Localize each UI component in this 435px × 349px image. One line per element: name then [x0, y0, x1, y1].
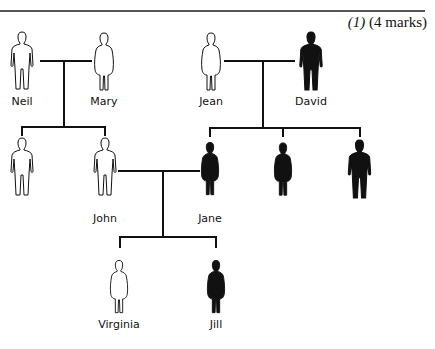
person-mary [92, 32, 116, 92]
sibling-bar-neil-mary [21, 126, 106, 128]
female-unaffected-icon [92, 32, 116, 92]
male-unaffected-icon [10, 137, 34, 197]
drop-gen2-son-2 [359, 127, 361, 137]
drop-virginia [119, 236, 121, 248]
label-jane: Jane [175, 212, 245, 225]
male-unaffected-icon [10, 31, 34, 91]
label-mary: Mary [69, 95, 139, 108]
person-virginia [108, 258, 130, 316]
header-rule [0, 10, 425, 12]
person-gen2-son-2 [347, 139, 372, 200]
drop-gen2-daughter [282, 127, 284, 137]
label-neil: Neil [0, 95, 57, 108]
person-gen2-son [10, 137, 34, 197]
female-affected-icon [272, 140, 294, 199]
label-jean: Jean [176, 95, 246, 108]
descent-line-john-jane [162, 170, 164, 237]
sibling-bar-john-jane [119, 236, 217, 238]
male-affected-icon [347, 139, 372, 200]
descent-line-neil-mary [63, 60, 65, 128]
male-affected-icon [298, 31, 324, 92]
descent-line-jean-david [262, 60, 264, 128]
marriage-line-jean-david [224, 60, 295, 62]
person-david [298, 31, 324, 92]
person-neil [10, 31, 34, 91]
person-gen2-daughter [272, 140, 294, 199]
drop-jill [215, 236, 217, 248]
marks-value: (4 marks) [369, 14, 427, 30]
question-number: (1) [348, 14, 366, 30]
drop-jane [209, 127, 211, 137]
female-affected-icon [205, 258, 227, 316]
marks-label: (1) (4 marks) [348, 14, 427, 31]
drop-gen2-son [21, 126, 23, 136]
marriage-line-john-jane [118, 170, 200, 172]
person-jane [199, 139, 221, 199]
label-john: John [70, 212, 140, 225]
label-virginia: Virginia [84, 318, 154, 331]
female-unaffected-icon [108, 258, 130, 316]
male-unaffected-icon [93, 137, 117, 197]
person-jean [199, 32, 223, 92]
marriage-line-neil-mary [40, 60, 92, 62]
female-affected-icon [199, 139, 221, 199]
drop-john [104, 126, 106, 136]
person-jill [205, 258, 227, 316]
label-david: David [276, 95, 346, 108]
female-unaffected-icon [199, 32, 223, 92]
person-john [93, 137, 117, 197]
sibling-bar-jean-david [209, 127, 361, 129]
label-jill: Jill [181, 318, 251, 331]
